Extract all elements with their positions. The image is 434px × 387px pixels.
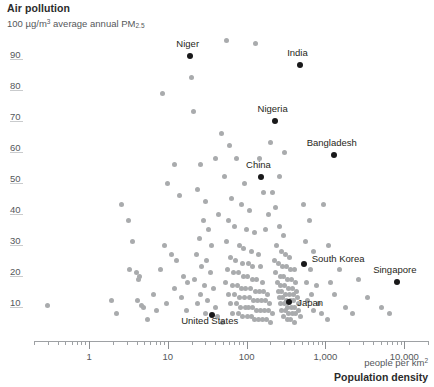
- x-axis-minor-tick: [127, 341, 128, 345]
- x-axis-minor-tick: [392, 341, 393, 345]
- data-point: [298, 314, 303, 319]
- x-axis-unit-label: people per km2: [364, 357, 428, 368]
- x-axis-minor-tick: [164, 341, 165, 345]
- data-point-label: India: [287, 47, 308, 58]
- x-axis-minor-tick: [192, 341, 193, 345]
- chart-title: Air pollution: [7, 2, 70, 14]
- data-point: [127, 267, 132, 272]
- x-axis-minor-tick: [239, 341, 240, 345]
- data-point: [321, 202, 326, 207]
- data-point: [198, 162, 203, 167]
- data-point: [184, 308, 189, 313]
- x-axis-minor-tick: [243, 341, 244, 345]
- data-point: [304, 280, 309, 285]
- data-point-highlighted[interactable]: [297, 62, 303, 68]
- data-point: [145, 317, 150, 322]
- x-axis-tick-label: 10: [138, 351, 198, 362]
- data-point: [253, 41, 258, 46]
- data-point: [172, 286, 177, 291]
- data-point: [250, 264, 255, 269]
- x-axis-minor-tick: [270, 341, 271, 345]
- data-point: [226, 292, 231, 297]
- data-point: [277, 224, 282, 229]
- data-point-label: China: [246, 159, 271, 170]
- data-point-highlighted[interactable]: [301, 261, 307, 267]
- data-point: [228, 255, 233, 260]
- x-axis-minor-tick: [234, 341, 235, 345]
- data-point: [192, 277, 197, 282]
- data-point: [213, 156, 218, 161]
- x-axis-minor-tick: [349, 341, 350, 345]
- x-axis-minor-tick: [373, 341, 374, 345]
- x-axis-minor-tick: [72, 341, 73, 345]
- data-point: [325, 317, 330, 322]
- data-point: [205, 298, 210, 303]
- data-point: [225, 267, 230, 272]
- data-point: [332, 292, 337, 297]
- data-point: [191, 109, 196, 114]
- data-point: [267, 301, 272, 306]
- data-point: [211, 286, 216, 291]
- data-point: [229, 196, 234, 201]
- y-axis-tick-mark: [10, 276, 23, 277]
- data-point: [268, 320, 273, 325]
- data-point: [319, 311, 324, 316]
- y-axis-tick-mark: [10, 59, 23, 60]
- data-point-highlighted[interactable]: [331, 152, 337, 158]
- y-axis-tick-mark: [10, 183, 23, 184]
- data-point-highlighted[interactable]: [258, 174, 264, 180]
- y-axis-unit-subtitle: 100 µg/m3 average annual PM2.5: [7, 18, 145, 29]
- x-axis-minor-tick: [318, 341, 319, 345]
- data-point: [249, 249, 254, 254]
- data-point: [151, 292, 156, 297]
- data-point: [265, 292, 270, 297]
- data-point: [270, 190, 275, 195]
- x-axis-minor-tick: [313, 341, 314, 345]
- subtitle-middle: average annual PM: [50, 18, 135, 29]
- data-point: [268, 140, 273, 145]
- x-axis-minor-tick: [113, 341, 114, 345]
- data-point: [197, 236, 202, 241]
- data-point: [154, 308, 159, 313]
- data-point-highlighted[interactable]: [187, 53, 193, 59]
- data-point: [350, 311, 355, 316]
- data-point: [195, 187, 200, 192]
- x-axis-minor-tick: [322, 341, 323, 345]
- x-axis-minor-tick: [150, 341, 151, 345]
- data-point-highlighted[interactable]: [272, 118, 278, 124]
- x-axis-minor-tick: [34, 341, 35, 345]
- x-axis-minor-tick: [387, 341, 388, 345]
- data-point: [326, 243, 331, 248]
- data-point-highlighted[interactable]: [394, 279, 400, 285]
- data-point: [301, 202, 306, 207]
- data-point: [204, 258, 209, 263]
- x-axis-minor-tick: [215, 341, 216, 345]
- data-point: [292, 267, 297, 272]
- data-point: [252, 230, 257, 235]
- data-point: [277, 174, 282, 179]
- data-point: [201, 218, 206, 223]
- air-pollution-scatter-chart: Air pollution 100 µg/m3 average annual P…: [0, 0, 434, 387]
- data-point: [226, 218, 231, 223]
- data-point: [247, 208, 252, 213]
- data-point: [233, 258, 238, 263]
- data-point: [227, 143, 232, 148]
- data-point: [179, 295, 184, 300]
- data-point: [223, 280, 228, 285]
- data-point: [158, 267, 163, 272]
- data-point: [162, 243, 167, 248]
- data-point: [126, 218, 131, 223]
- x-axis-minor-tick: [58, 341, 59, 345]
- data-point: [260, 280, 265, 285]
- data-point: [266, 212, 271, 217]
- data-point: [216, 212, 221, 217]
- x-axis-minor-tick: [85, 341, 86, 345]
- x-unit-superscript: 2: [424, 357, 428, 364]
- data-point: [209, 243, 214, 248]
- data-point: [308, 267, 313, 272]
- x-axis-minor-tick: [397, 341, 398, 345]
- data-point-label: Japan: [297, 297, 323, 308]
- data-point: [165, 181, 170, 186]
- data-point: [287, 255, 292, 260]
- y-axis-tick-mark: [10, 214, 23, 215]
